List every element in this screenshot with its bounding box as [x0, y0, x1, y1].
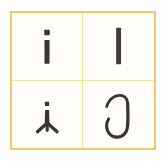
dotted-i-forked-foot-icon — [12, 81, 82, 149]
cursive-j-hook-icon — [83, 81, 154, 149]
grid-cell-top-right: ı — [83, 13, 154, 81]
grid-cell-top-left: i — [12, 13, 83, 81]
dotted-i-icon — [12, 13, 82, 80]
letterform-grid: i ı i — [10, 11, 156, 150]
grid-cell-bottom-right: ȷ — [83, 81, 154, 149]
grid-cell-bottom-left: i — [12, 81, 83, 149]
figure-canvas: i ı i — [0, 0, 165, 162]
dotless-i-bar-icon — [83, 13, 154, 80]
